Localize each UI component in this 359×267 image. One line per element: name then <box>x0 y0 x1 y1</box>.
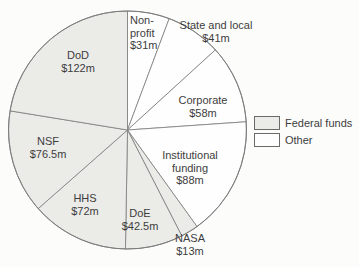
slice-name: NSF <box>30 135 67 148</box>
slice-name: profit <box>130 27 158 40</box>
legend-label-federal-funds: Federal funds <box>285 117 352 129</box>
slice-label-nasa: NASA $13m <box>175 232 205 257</box>
slice-label-hhs: HHS $72m <box>71 192 99 217</box>
slice-label-dod: DoD $122m <box>61 49 95 74</box>
pie-chart-figure: Non- profit $31m State and local $41m Co… <box>0 0 359 267</box>
slice-name: Institutional <box>162 149 218 162</box>
legend-swatch-federal-funds <box>254 116 280 130</box>
slice-value: $13m <box>175 245 205 258</box>
slice-value: $72m <box>71 205 99 218</box>
slice-value: $76.5m <box>30 148 67 161</box>
slice-value: $41m <box>180 32 253 45</box>
slice-name: DoE <box>122 207 159 220</box>
legend: Federal funds Other <box>254 116 352 147</box>
slice-value: $31m <box>130 39 158 52</box>
legend-item-other: Other <box>254 133 352 147</box>
slice-value: $58m <box>179 107 228 120</box>
slice-name: State and local <box>180 19 253 32</box>
slice-label-nsf: NSF $76.5m <box>30 135 67 160</box>
slice-label-corporate: Corporate $58m <box>179 94 228 119</box>
legend-swatch-other <box>254 133 280 147</box>
slice-value: $42.5m <box>122 220 159 233</box>
slice-name: Non- <box>130 14 158 27</box>
slice-name: DoD <box>61 49 95 62</box>
legend-label-other: Other <box>285 134 313 146</box>
slice-label-doe: DoE $42.5m <box>122 207 159 232</box>
slice-value: $122m <box>61 62 95 75</box>
legend-item-federal-funds: Federal funds <box>254 116 352 130</box>
slice-label-non-profit: Non- profit $31m <box>130 14 158 52</box>
slice-name: funding <box>162 162 218 175</box>
slice-name: Corporate <box>179 94 228 107</box>
slice-label-institutional-funding: Institutional funding $88m <box>162 149 218 187</box>
slice-name: NASA <box>175 232 205 245</box>
slice-label-state-and-local: State and local $41m <box>180 19 253 44</box>
slice-value: $88m <box>162 174 218 187</box>
slice-name: HHS <box>71 192 99 205</box>
